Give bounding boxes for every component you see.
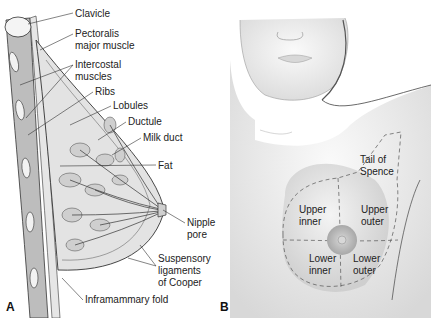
label-ductule: Ductule [128, 116, 162, 128]
label-upper-outer: Upper outer [361, 204, 388, 228]
label-milk-duct: Milk duct [143, 132, 182, 144]
label-pectoralis-major: Pectoralis major muscle [75, 28, 134, 52]
label-clavicle: Clavicle [75, 8, 110, 20]
label-lobules: Lobules [113, 100, 148, 112]
label-nipple-pore: Nipple pore [187, 217, 215, 241]
label-ribs: Ribs [95, 86, 115, 98]
panel-letter-b: B [220, 300, 229, 314]
label-upper-inner: Upper inner [299, 204, 326, 228]
label-suspensory-ligaments: Suspensory ligaments of Cooper [158, 253, 211, 289]
label-lower-inner: Lower inner [309, 253, 336, 277]
label-tail-of-spence: Tail of Spence [360, 154, 394, 178]
panel-letter-a: A [6, 300, 15, 314]
label-inframammary-fold: Inframammary fold [85, 294, 168, 306]
label-fat: Fat [158, 160, 172, 172]
label-intercostal-muscles: Intercostal muscles [75, 59, 121, 83]
label-lower-outer: Lower outer [353, 253, 380, 277]
